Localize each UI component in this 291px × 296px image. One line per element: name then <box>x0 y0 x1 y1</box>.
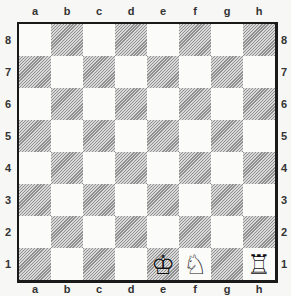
square-d5[interactable] <box>115 120 147 152</box>
square-b4[interactable] <box>51 152 83 184</box>
square-c1[interactable] <box>83 248 115 280</box>
file-label-bottom-a: a <box>19 283 51 295</box>
square-a4[interactable] <box>19 152 51 184</box>
square-b2[interactable] <box>51 216 83 248</box>
file-label-top-h: h <box>243 5 275 17</box>
rank-label-left-8: 8 <box>1 24 15 56</box>
white-rook-icon[interactable]: ♖ <box>247 251 271 278</box>
square-b6[interactable] <box>51 88 83 120</box>
file-label-bottom-b: b <box>51 283 83 295</box>
square-d6[interactable] <box>115 88 147 120</box>
square-a1[interactable] <box>19 248 51 280</box>
square-e2[interactable] <box>147 216 179 248</box>
rank-label-left-2: 2 <box>1 216 15 248</box>
square-d8[interactable] <box>115 24 147 56</box>
square-g8[interactable] <box>211 24 243 56</box>
square-g7[interactable] <box>211 56 243 88</box>
white-knight-icon[interactable]: ♘ <box>183 251 207 278</box>
file-label-bottom-f: f <box>179 283 211 295</box>
file-label-top-g: g <box>211 5 243 17</box>
square-d1[interactable] <box>115 248 147 280</box>
square-a7[interactable] <box>19 56 51 88</box>
rank-label-left-3: 3 <box>1 184 15 216</box>
square-c8[interactable] <box>83 24 115 56</box>
square-f7[interactable] <box>179 56 211 88</box>
file-label-top-e: e <box>147 5 179 17</box>
square-g1[interactable] <box>211 248 243 280</box>
square-a5[interactable] <box>19 120 51 152</box>
square-a8[interactable] <box>19 24 51 56</box>
square-h4[interactable] <box>243 152 275 184</box>
rank-label-right-5: 5 <box>277 120 291 152</box>
file-label-top-d: d <box>115 5 147 17</box>
rank-label-left-1: 1 <box>1 248 15 280</box>
square-h8[interactable] <box>243 24 275 56</box>
square-g3[interactable] <box>211 184 243 216</box>
square-f3[interactable] <box>179 184 211 216</box>
square-d2[interactable] <box>115 216 147 248</box>
square-c3[interactable] <box>83 184 115 216</box>
rank-label-right-4: 4 <box>277 152 291 184</box>
square-e6[interactable] <box>147 88 179 120</box>
square-b5[interactable] <box>51 120 83 152</box>
square-h1[interactable]: ♖ <box>243 248 275 280</box>
square-f4[interactable] <box>179 152 211 184</box>
file-label-bottom-c: c <box>83 283 115 295</box>
square-a6[interactable] <box>19 88 51 120</box>
square-f6[interactable] <box>179 88 211 120</box>
file-label-bottom-h: h <box>243 283 275 295</box>
square-e4[interactable] <box>147 152 179 184</box>
square-b7[interactable] <box>51 56 83 88</box>
square-c5[interactable] <box>83 120 115 152</box>
square-c4[interactable] <box>83 152 115 184</box>
square-f1[interactable]: ♘ <box>179 248 211 280</box>
file-label-bottom-g: g <box>211 283 243 295</box>
file-label-bottom-d: d <box>115 283 147 295</box>
square-a2[interactable] <box>19 216 51 248</box>
square-h2[interactable] <box>243 216 275 248</box>
rank-label-left-5: 5 <box>1 120 15 152</box>
square-b8[interactable] <box>51 24 83 56</box>
square-d7[interactable] <box>115 56 147 88</box>
square-g2[interactable] <box>211 216 243 248</box>
rank-label-right-2: 2 <box>277 216 291 248</box>
square-h7[interactable] <box>243 56 275 88</box>
square-g4[interactable] <box>211 152 243 184</box>
square-d4[interactable] <box>115 152 147 184</box>
file-label-top-b: b <box>51 5 83 17</box>
file-label-top-f: f <box>179 5 211 17</box>
rank-label-right-6: 6 <box>277 88 291 120</box>
rank-label-right-8: 8 <box>277 24 291 56</box>
square-c7[interactable] <box>83 56 115 88</box>
square-e5[interactable] <box>147 120 179 152</box>
square-f8[interactable] <box>179 24 211 56</box>
chess-board[interactable]: ♔♘♖ <box>17 22 278 283</box>
square-c2[interactable] <box>83 216 115 248</box>
square-g6[interactable] <box>211 88 243 120</box>
rank-label-right-3: 3 <box>277 184 291 216</box>
square-e3[interactable] <box>147 184 179 216</box>
rank-label-right-1: 1 <box>277 248 291 280</box>
square-g5[interactable] <box>211 120 243 152</box>
square-e7[interactable] <box>147 56 179 88</box>
square-b1[interactable] <box>51 248 83 280</box>
rank-label-left-7: 7 <box>1 56 15 88</box>
rank-label-left-4: 4 <box>1 152 15 184</box>
square-h3[interactable] <box>243 184 275 216</box>
rank-label-left-6: 6 <box>1 88 15 120</box>
square-h5[interactable] <box>243 120 275 152</box>
square-a3[interactable] <box>19 184 51 216</box>
white-king-icon[interactable]: ♔ <box>151 251 175 278</box>
square-c6[interactable] <box>83 88 115 120</box>
rank-label-right-7: 7 <box>277 56 291 88</box>
square-e1[interactable]: ♔ <box>147 248 179 280</box>
file-label-bottom-e: e <box>147 283 179 295</box>
file-label-top-a: a <box>19 5 51 17</box>
square-h6[interactable] <box>243 88 275 120</box>
square-f2[interactable] <box>179 216 211 248</box>
square-d3[interactable] <box>115 184 147 216</box>
square-f5[interactable] <box>179 120 211 152</box>
square-b3[interactable] <box>51 184 83 216</box>
file-label-top-c: c <box>83 5 115 17</box>
square-e8[interactable] <box>147 24 179 56</box>
